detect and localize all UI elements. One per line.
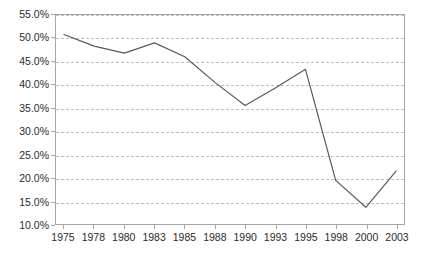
x-tick-label: 1993 (264, 232, 287, 243)
y-tick-mark (51, 61, 55, 62)
x-tick-label: 2003 (385, 232, 408, 243)
y-tick-label: 10.0% (19, 220, 49, 231)
x-tick-label: 1990 (233, 232, 256, 243)
x-tick-label: 1995 (294, 232, 317, 243)
y-tick-label: 35.0% (19, 103, 49, 114)
x-tick-label: 1988 (203, 232, 226, 243)
x-tick-label: 1978 (82, 232, 105, 243)
y-tick-label: 40.0% (19, 79, 49, 90)
x-tick-label: 1975 (51, 232, 74, 243)
x-tick-label: 1998 (325, 232, 348, 243)
x-tick-mark (306, 225, 307, 229)
x-tick-label: 1983 (142, 232, 165, 243)
x-tick-label: 2000 (355, 232, 378, 243)
y-tick-mark (51, 37, 55, 38)
line-chart: 10.0%15.0%20.0%25.0%30.0%35.0%40.0%45.0%… (0, 0, 422, 265)
x-tick-mark (276, 225, 277, 229)
x-tick-mark (215, 225, 216, 229)
x-tick-mark (184, 225, 185, 229)
y-tick-mark (51, 108, 55, 109)
x-tick-label: 1980 (112, 232, 135, 243)
x-tick-mark (93, 225, 94, 229)
y-tick-mark (51, 225, 55, 226)
y-tick-mark (51, 202, 55, 203)
y-tick-label: 50.0% (19, 32, 49, 43)
y-tick-mark (51, 84, 55, 85)
y-tick-label: 30.0% (19, 126, 49, 137)
x-axis: 1975197819801983198519881990199319951998… (0, 232, 422, 252)
y-tick-label: 55.0% (19, 9, 49, 20)
x-tick-label: 1985 (173, 232, 196, 243)
x-tick-mark (397, 225, 398, 229)
plot-area (55, 14, 405, 225)
y-tick-label: 20.0% (19, 173, 49, 184)
y-tick-label: 25.0% (19, 149, 49, 160)
x-tick-mark (124, 225, 125, 229)
x-tick-mark (336, 225, 337, 229)
series-line (64, 35, 396, 208)
x-tick-mark (154, 225, 155, 229)
y-tick-mark (51, 155, 55, 156)
series-line-group (56, 15, 404, 224)
y-tick-mark (51, 131, 55, 132)
y-axis: 10.0%15.0%20.0%25.0%30.0%35.0%40.0%45.0%… (0, 0, 52, 265)
y-tick-mark (51, 178, 55, 179)
y-tick-label: 45.0% (19, 56, 49, 67)
y-tick-mark (51, 14, 55, 15)
x-tick-mark (245, 225, 246, 229)
y-tick-label: 15.0% (19, 196, 49, 207)
x-tick-mark (63, 225, 64, 229)
x-tick-mark (367, 225, 368, 229)
